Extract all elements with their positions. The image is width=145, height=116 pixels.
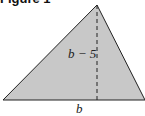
height-label: b − 5 bbox=[68, 46, 96, 62]
base-label: b bbox=[76, 101, 83, 116]
